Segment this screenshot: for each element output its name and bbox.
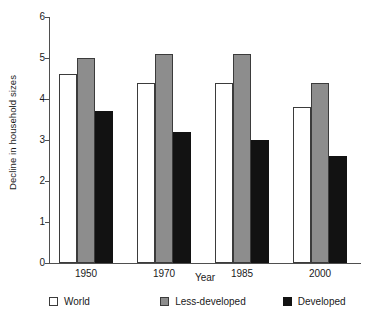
bar bbox=[95, 111, 113, 263]
y-axis-tick-label: 5 bbox=[39, 53, 45, 63]
bar bbox=[215, 83, 233, 263]
y-axis-tick bbox=[45, 58, 49, 59]
bar bbox=[329, 156, 347, 263]
bar bbox=[251, 140, 269, 263]
chart-legend: WorldLess-developedDeveloped bbox=[49, 296, 369, 307]
bar bbox=[59, 74, 77, 263]
legend-item: Developed bbox=[283, 296, 369, 307]
legend-item: Less-developed bbox=[160, 296, 283, 307]
bar bbox=[293, 107, 311, 263]
y-axis-tick-label: 3 bbox=[39, 135, 45, 145]
y-axis-tick bbox=[45, 181, 49, 182]
y-axis-tick bbox=[45, 140, 49, 141]
legend-item: World bbox=[49, 296, 160, 307]
bar bbox=[311, 83, 329, 263]
y-axis-tick-label: 6 bbox=[39, 12, 45, 22]
bar-group bbox=[215, 17, 269, 263]
y-axis-tick-label: 0 bbox=[39, 258, 45, 268]
legend-label: Less-developed bbox=[175, 296, 246, 307]
y-axis-tick bbox=[45, 263, 49, 264]
bar bbox=[233, 54, 251, 263]
plot-area: 0123456 1950197019852000 bbox=[49, 17, 361, 264]
y-axis-tick bbox=[45, 99, 49, 100]
bar-group bbox=[137, 17, 191, 263]
y-axis-tick bbox=[45, 222, 49, 223]
legend-swatch-icon bbox=[160, 297, 169, 306]
legend-swatch-icon bbox=[283, 297, 292, 306]
bar-group bbox=[293, 17, 347, 263]
y-axis-tick-label: 1 bbox=[39, 217, 45, 227]
y-axis-title: Decline in household sizes bbox=[2, 0, 24, 264]
legend-swatch-icon bbox=[49, 297, 58, 306]
bar bbox=[173, 132, 191, 263]
x-axis-title: Year bbox=[49, 272, 361, 283]
y-axis-tick-label: 4 bbox=[39, 94, 45, 104]
bar-group bbox=[59, 17, 113, 263]
y-axis-tick bbox=[45, 17, 49, 18]
bar-chart: Decline in household sizes 0123456 19501… bbox=[0, 0, 379, 323]
legend-label: World bbox=[64, 296, 90, 307]
y-axis-line bbox=[49, 17, 50, 264]
bar bbox=[77, 58, 95, 263]
bar bbox=[155, 54, 173, 263]
legend-label: Developed bbox=[298, 296, 346, 307]
x-axis-line bbox=[49, 263, 361, 264]
bar bbox=[137, 83, 155, 263]
y-axis-tick-label: 2 bbox=[39, 176, 45, 186]
y-axis-title-label: Decline in household sizes bbox=[8, 74, 19, 189]
